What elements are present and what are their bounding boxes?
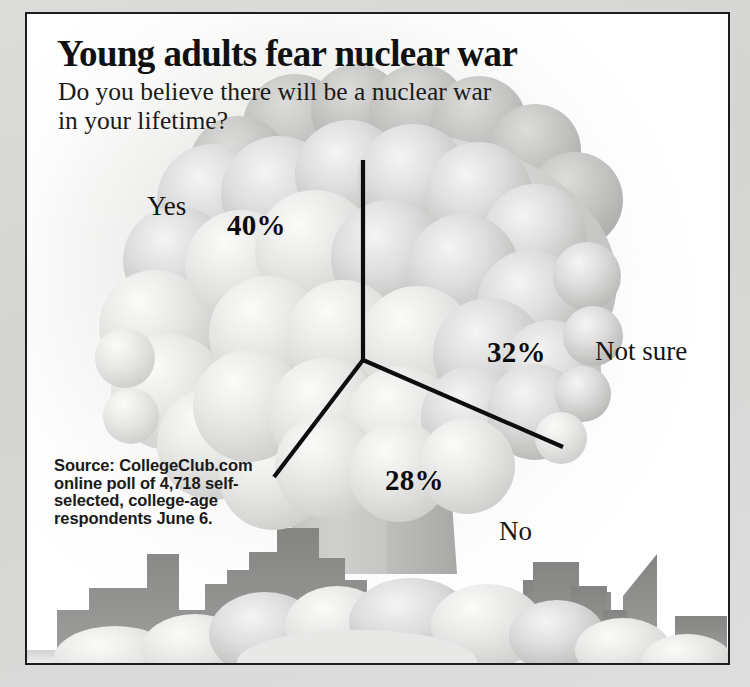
pie-value-yes: 40% [227, 209, 286, 242]
source-note: Source: CollegeClub.com online poll of 4… [54, 457, 294, 527]
pie-value-no: 28% [385, 464, 444, 497]
infographic-page: Young adults fear nuclear war Do you bel… [0, 0, 750, 687]
page-subtitle: Do you believe there will be a nuclear w… [58, 77, 498, 135]
graphic-panel: Young adults fear nuclear war Do you bel… [25, 12, 730, 665]
pie-label-not-sure: Not sure [595, 336, 687, 367]
pie-value-not-sure: 32% [487, 336, 546, 369]
pie-label-yes: Yes [147, 191, 186, 222]
pie-label-no: No [499, 516, 532, 547]
page-title: Young adults fear nuclear war [57, 32, 517, 75]
